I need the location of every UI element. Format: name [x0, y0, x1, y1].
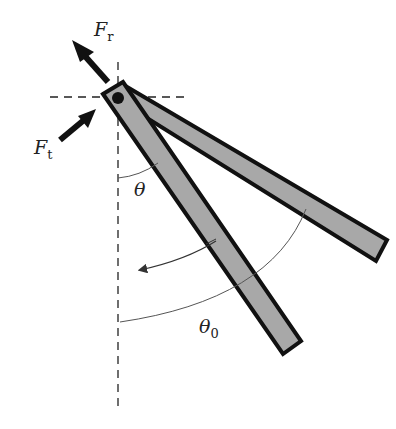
- tangential-force-subscript: t: [47, 147, 52, 162]
- theta0-symbol: θ: [199, 315, 210, 337]
- radial-force-arrow: [72, 40, 108, 82]
- rod-current-position: [103, 82, 301, 354]
- theta-label: θ: [134, 180, 145, 199]
- rod-initial-position: [110, 84, 387, 261]
- radial-force-symbol: F: [94, 18, 107, 40]
- radial-force-subscript: r: [107, 29, 113, 44]
- swing-arrow-arc: [140, 241, 216, 270]
- theta0-subscript: 0: [210, 326, 218, 341]
- theta0-label: θ0: [199, 317, 219, 336]
- tangential-force-label: Ft: [34, 138, 52, 157]
- tangential-force-symbol: F: [34, 136, 47, 158]
- tangential-force-arrow: [60, 109, 96, 140]
- radial-force-label: Fr: [94, 20, 113, 39]
- pivot-icon: [112, 92, 124, 104]
- theta-symbol: θ: [134, 178, 145, 200]
- pendulum-diagram: Fr Ft θ θ0: [0, 0, 396, 429]
- diagram-graphics: [0, 0, 396, 429]
